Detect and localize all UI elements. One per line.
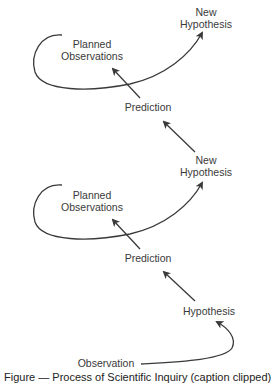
arrow-prediction-to-planned-top [113, 69, 140, 98]
node-label-line: Observations [61, 201, 123, 213]
node-new-hypothesis-middle: New Hypothesis [180, 154, 232, 178]
node-label-line: Observations [61, 50, 123, 62]
node-planned-observations-middle: Planned Observations [61, 189, 123, 213]
node-label: Prediction [125, 252, 172, 264]
node-label: Observation [78, 357, 135, 369]
node-observation: Observation [78, 357, 135, 369]
node-label-line: Hypothesis [180, 18, 232, 30]
arrow-newhyp-to-prediction [164, 122, 195, 152]
node-label-line: Planned [61, 38, 123, 50]
arrow-prediction-to-planned-mid [113, 220, 140, 249]
node-label-line: Hypothesis [180, 166, 232, 178]
node-new-hypothesis-top: New Hypothesis [180, 6, 232, 30]
node-label: Prediction [125, 101, 172, 113]
node-label-line: New [180, 6, 232, 18]
node-label: Hypothesis [183, 305, 235, 317]
node-planned-observations-top: Planned Observations [61, 38, 123, 62]
node-prediction-middle: Prediction [125, 252, 172, 264]
arrow-observation-to-hypothesis [141, 322, 233, 364]
arrow-hypothesis-to-prediction [164, 272, 195, 301]
node-prediction-top: Prediction [125, 101, 172, 113]
node-label-line: Planned [61, 189, 123, 201]
node-hypothesis: Hypothesis [183, 305, 235, 317]
node-label-line: New [180, 154, 232, 166]
figure-caption: Figure — Process of Scientific Inquiry (… [0, 371, 271, 383]
